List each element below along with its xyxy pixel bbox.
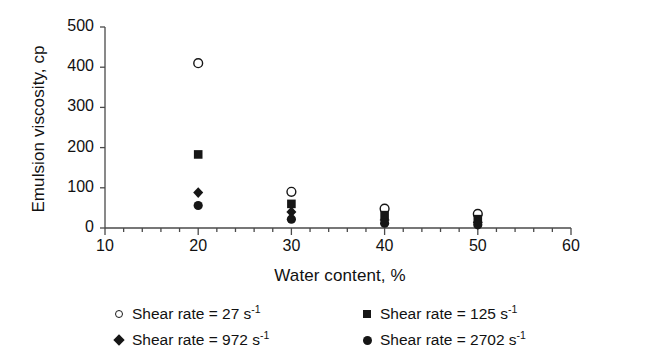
chart-container: Emulsion viscosity, cp Water content, % … — [0, 0, 653, 363]
x-tick-label: 50 — [448, 237, 508, 255]
legend-marker-diamond-filled-icon — [108, 336, 130, 344]
data-point — [194, 201, 203, 210]
series-2 — [193, 187, 483, 228]
y-tick-label: 200 — [34, 138, 94, 156]
axes-group — [100, 27, 571, 235]
legend-marker-circle-filled-icon — [356, 336, 378, 345]
legend-label-superscript: -1 — [517, 329, 526, 341]
series-1 — [194, 150, 482, 223]
y-tick-label: 100 — [34, 178, 94, 196]
series-0 — [194, 59, 482, 219]
data-point — [380, 219, 389, 228]
x-tick-label: 10 — [75, 237, 135, 255]
x-tick-label: 30 — [261, 237, 321, 255]
y-tick-label: 300 — [34, 97, 94, 115]
legend-item: Shear rate = 125 s-1 — [356, 301, 578, 327]
y-tick-label: 0 — [34, 218, 94, 236]
legend-label: Shear rate = 2702 s-1 — [378, 331, 526, 349]
data-point — [473, 220, 482, 229]
data-point — [194, 59, 203, 68]
y-tick-label: 400 — [34, 57, 94, 75]
legend-label-superscript: -1 — [508, 303, 517, 315]
data-point — [287, 215, 296, 224]
legend-item: Shear rate = 27 s-1 — [108, 301, 330, 327]
data-points-group — [193, 59, 483, 230]
legend-label-superscript: -1 — [260, 329, 269, 341]
data-point — [194, 150, 203, 159]
legend-label-superscript: -1 — [251, 303, 260, 315]
y-tick-label: 500 — [34, 17, 94, 35]
data-point — [287, 187, 296, 196]
legend-label: Shear rate = 27 s-1 — [130, 305, 261, 323]
x-tick-label: 20 — [168, 237, 228, 255]
x-tick-label: 40 — [355, 237, 415, 255]
legend-item: Shear rate = 2702 s-1 — [356, 327, 578, 353]
legend-marker-circle-open-icon — [108, 310, 130, 318]
legend-item: Shear rate = 972 s-1 — [108, 327, 330, 353]
x-tick-label: 60 — [541, 237, 601, 255]
data-point — [193, 187, 203, 198]
chart-legend: Shear rate = 27 s-1Shear rate = 125 s-1S… — [108, 301, 578, 353]
legend-marker-square-filled-icon — [356, 310, 378, 318]
series-3 — [194, 201, 483, 229]
legend-label: Shear rate = 972 s-1 — [130, 331, 269, 349]
legend-label: Shear rate = 125 s-1 — [378, 305, 517, 323]
